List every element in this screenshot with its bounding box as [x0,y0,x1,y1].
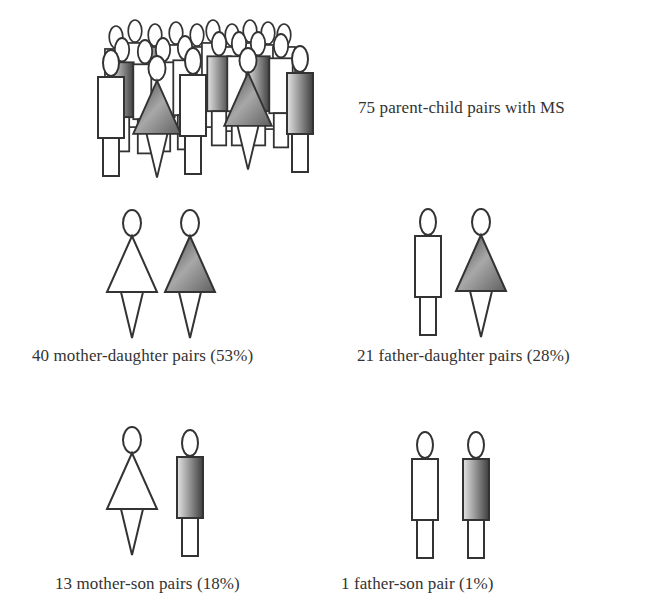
mother-daughter-label: 40 mother-daughter pairs (53%) [32,346,253,366]
father-figure [412,432,438,558]
father-figure [415,209,441,335]
mother-figure [107,210,157,338]
daughter-figure-shaded [456,209,506,337]
son-figure-shaded [463,432,489,558]
mother-son-figures [107,427,203,556]
crowd-of-parent-child-pairs [98,20,313,178]
mother-figure [107,427,157,555]
father-son-label: 1 father-son pair (1%) [341,574,493,594]
father-son-figures [412,432,489,558]
daughter-figure-shaded [165,210,215,338]
mother-daughter-figures [107,210,215,338]
mother-son-label: 13 mother-son pairs (18%) [55,574,240,594]
father-daughter-label: 21 father-daughter pairs (28%) [357,346,570,366]
total-pairs-label: 75 parent-child pairs with MS [358,98,565,118]
son-figure-shaded [177,430,203,556]
pairs-diagram [0,0,659,616]
father-daughter-figures [415,209,506,337]
